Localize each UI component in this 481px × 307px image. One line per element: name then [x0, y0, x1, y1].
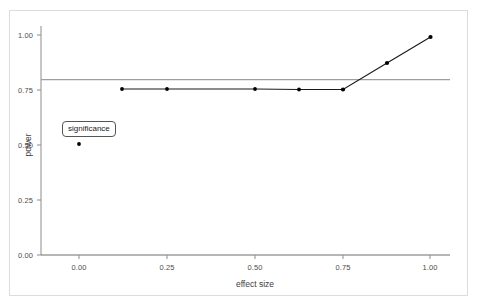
x-tick-label-0.75: 0.75 [336, 263, 351, 272]
data-point [428, 35, 432, 39]
y-tick-label-0.00: 0.00 [5, 251, 33, 260]
x-axis-title: effect size [236, 279, 274, 289]
data-point [385, 61, 389, 65]
y-axis-title: power [23, 133, 33, 156]
y-tick-label-0.25: 0.25 [5, 196, 33, 205]
data-point [297, 88, 301, 92]
x-tick-label-0.50: 0.50 [248, 263, 263, 272]
plot-svg [0, 0, 481, 307]
data-point [77, 142, 81, 146]
x-tick-label-1.00: 1.00 [423, 263, 438, 272]
data-point [253, 87, 257, 91]
chart-screenshot: 1.00 0.75 0.50 0.25 0.00 0.00 0.25 0.50 … [0, 0, 481, 307]
power-curve-line [122, 37, 431, 90]
y-tick-label-0.75: 0.75 [5, 86, 33, 95]
significance-annotation-label: significance [62, 121, 116, 137]
data-point [120, 87, 124, 91]
data-point [165, 87, 169, 91]
plot-area: 1.00 0.75 0.50 0.25 0.00 0.00 0.25 0.50 … [0, 0, 481, 307]
x-tick-label-0.00: 0.00 [72, 263, 87, 272]
data-point [341, 87, 345, 91]
x-tick-label-0.25: 0.25 [160, 263, 175, 272]
y-tick-label-1.00: 1.00 [5, 31, 33, 40]
